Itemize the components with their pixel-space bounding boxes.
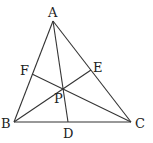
segment-ad [53,21,68,122]
label-c: C [135,116,145,131]
label-e: E [93,60,103,75]
segment-cf [32,74,131,122]
label-a: A [47,5,58,20]
label-p: P [54,91,63,106]
segments [14,21,131,122]
label-f: F [20,63,29,78]
label-b: B [1,116,11,131]
segment-ca [53,21,131,122]
labels: A B C D E F P [1,5,145,141]
geometry-diagram: A B C D E F P [0,0,153,143]
label-d: D [63,126,73,141]
